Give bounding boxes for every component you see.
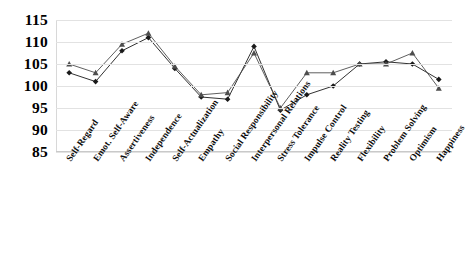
line-chart: 115110105100959085 Self-RegardEmot. Self…	[0, 0, 466, 273]
y-axis: 115110105100959085	[0, 0, 52, 165]
gridline	[56, 42, 452, 43]
data-point-marker	[409, 50, 415, 56]
gridline	[56, 20, 452, 21]
data-point-marker	[145, 30, 151, 36]
y-tick-label: 105	[24, 56, 48, 72]
y-tick-label: 115	[25, 12, 48, 28]
y-tick-label: 100	[24, 78, 48, 94]
data-point-marker	[66, 70, 72, 76]
y-tick-label: 110	[25, 34, 48, 50]
gridline	[56, 64, 452, 65]
data-point-marker	[436, 77, 442, 83]
y-tick-label: 90	[32, 122, 48, 138]
gridline	[56, 86, 452, 87]
data-point-marker	[251, 44, 257, 50]
x-axis: Self-RegardEmot. Self-AwareAssertiveness…	[0, 152, 466, 273]
data-point-marker	[225, 96, 231, 102]
gridline	[56, 108, 452, 109]
y-tick-label: 95	[32, 100, 48, 116]
